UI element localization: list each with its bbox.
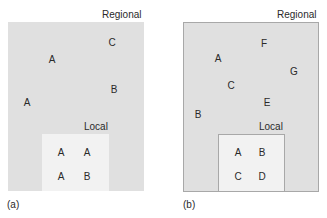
local-point: A [84, 148, 91, 158]
caption-b: (b) [183, 200, 195, 210]
regional-point: B [195, 110, 202, 120]
local-label-b: Local [259, 122, 283, 132]
regional-label-b: Regional [277, 10, 316, 20]
local-point: C [234, 172, 241, 182]
local-point: B [259, 148, 266, 158]
regional-label-a: Regional [102, 10, 141, 20]
local-area-b [218, 134, 285, 191]
local-point: A [58, 172, 65, 182]
regional-point: E [264, 98, 271, 108]
regional-point: F [261, 39, 267, 49]
regional-point: A [24, 98, 31, 108]
regional-point: C [227, 81, 234, 91]
regional-point: G [290, 67, 298, 77]
local-point: A [235, 148, 242, 158]
caption-a: (a) [7, 200, 19, 210]
local-area-a [42, 134, 109, 191]
local-point: B [84, 172, 91, 182]
local-point: D [258, 172, 265, 182]
regional-point: C [108, 38, 115, 48]
local-point: A [58, 148, 65, 158]
regional-point: B [111, 85, 118, 95]
regional-point: A [215, 54, 222, 64]
local-label-a: Local [84, 122, 108, 132]
regional-point: A [49, 55, 56, 65]
